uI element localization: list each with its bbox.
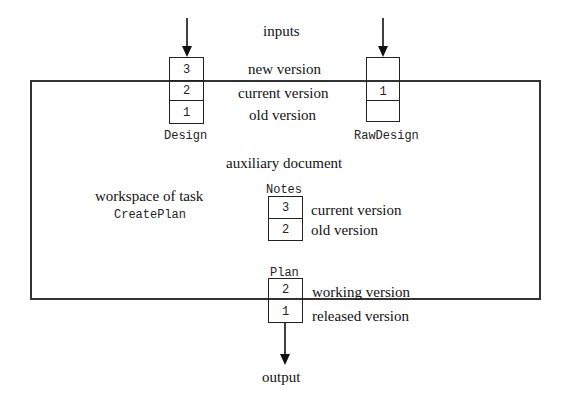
design-document: 3 2 1 — [169, 57, 204, 124]
workspace-label: workspace of task — [95, 189, 203, 204]
old-version-label: old version — [249, 108, 316, 123]
design-cell-version: 1 — [170, 102, 203, 124]
notes-current-version-label: current version — [311, 203, 401, 218]
design-cell-version: 2 — [170, 81, 203, 101]
input-arrow-rawdesign-icon — [378, 18, 388, 57]
rawdesign-cell-version — [367, 58, 399, 81]
input-arrow-design-icon — [182, 18, 192, 57]
output-label: output — [262, 370, 300, 385]
rawdesign-cell-version — [367, 102, 399, 122]
inputs-label: inputs — [263, 24, 300, 39]
notes-old-version-label: old version — [311, 223, 378, 238]
design-document-name: Design — [164, 130, 207, 142]
auxiliary-document-label: auxiliary document — [226, 156, 342, 171]
current-version-label: current version — [238, 86, 328, 101]
working-version-label: working version — [312, 285, 410, 300]
rawdesign-divider — [367, 100, 399, 101]
notes-cell-version: 2 — [269, 219, 302, 240]
released-version-label: released version — [312, 309, 409, 324]
rawdesign-cell-version: 1 — [367, 82, 399, 101]
plan-cell-version: 1 — [269, 301, 302, 322]
plan-document: 2 1 — [268, 278, 303, 323]
notes-document: 3 2 — [268, 196, 303, 241]
plan-cell-version: 2 — [269, 279, 302, 300]
design-cell-version: 3 — [170, 58, 203, 81]
notes-cell-version: 3 — [269, 197, 302, 218]
workspace-task-name: CreatePlan — [114, 209, 186, 221]
output-arrow-icon — [280, 322, 290, 365]
new-version-label: new version — [248, 62, 321, 77]
design-divider — [170, 100, 203, 101]
rawdesign-document-name: RawDesign — [354, 130, 419, 142]
rawdesign-document: 1 — [366, 57, 400, 122]
version-diagram: inputs output 3 2 1 Design 1 RawDesign n… — [0, 0, 563, 402]
notes-document-name: Notes — [266, 184, 302, 196]
